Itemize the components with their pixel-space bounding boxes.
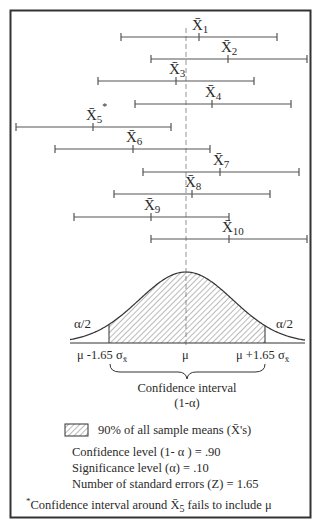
sample-mean-label: X̄4 [205, 84, 222, 102]
confidence-interval-10: X̄10 [151, 219, 307, 243]
sample-mean-label: X̄1 [192, 17, 208, 35]
confidence-interval-7: X̄7 [143, 152, 299, 176]
confidence-brace [110, 364, 265, 379]
sample-mean-label: X̄8 [185, 174, 202, 192]
figure-border [11, 11, 311, 518]
footnote: *Confidence interval around X̄5 fails to… [26, 496, 272, 514]
confidence-interval-5: X̄5* [16, 101, 171, 131]
interval-list: X̄1X̄2X̄3X̄4X̄5*X̄6X̄7X̄8X̄9X̄10 [16, 17, 307, 243]
right-tail-label: α/2 [276, 316, 293, 331]
sample-mean-label: X̄3 [169, 61, 186, 79]
brace-label-alpha: (1-α) [174, 396, 199, 410]
confidence-interval-2: X̄2 [151, 39, 307, 63]
confidence-interval-8: X̄8 [114, 174, 270, 198]
sample-mean-label: X̄5* [86, 101, 107, 125]
confidence-interval-1: X̄1 [121, 17, 277, 41]
legend-text: 90% of all sample means (X̄'s) [98, 423, 251, 437]
brace-label: Confidence interval [138, 381, 237, 395]
center-label: μ [182, 348, 189, 362]
confidence-interval-4: X̄4 [135, 84, 291, 108]
confidence-interval-figure: X̄1X̄2X̄3X̄4X̄5*X̄6X̄7X̄8X̄9X̄10 α/2 α/2… [0, 0, 320, 522]
sample-mean-label: X̄10 [222, 219, 244, 237]
lower-bound-label: μ -1.65 σx̄ [77, 348, 128, 364]
sample-mean-label: X̄6 [126, 129, 143, 147]
stat-line: Number of standard errors (Z) = 1.65 [72, 477, 259, 491]
legend: 90% of all sample means (X̄'s) [65, 423, 251, 437]
confidence-interval-9: X̄9 [74, 197, 229, 221]
confidence-interval-6: X̄6 [55, 129, 210, 153]
stats-list: Confidence level (1- α ) = .90Significan… [72, 445, 259, 491]
hatched-swatch [65, 424, 88, 436]
figure-canvas: X̄1X̄2X̄3X̄4X̄5*X̄6X̄7X̄8X̄9X̄10 α/2 α/2… [0, 0, 320, 522]
left-tail-label: α/2 [74, 316, 91, 331]
sample-mean-label: X̄2 [221, 39, 237, 57]
stat-line: Significance level (α) = .10 [72, 461, 209, 475]
sample-mean-label: X̄9 [144, 197, 161, 215]
confidence-interval-3: X̄3 [98, 61, 254, 85]
stat-line: Confidence level (1- α ) = .90 [72, 445, 221, 459]
sample-mean-label: X̄7 [213, 152, 230, 170]
sampling-distribution: α/2 α/2 μ -1.65 σx̄ μ μ +1.65 σx̄ Confid… [70, 272, 305, 410]
upper-bound-label: μ +1.65 σx̄ [236, 348, 290, 364]
